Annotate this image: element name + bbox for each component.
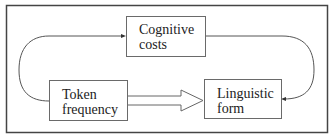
node-label-line1: Cognitive <box>139 22 205 37</box>
node-label-line1: Token <box>62 87 127 102</box>
node-token-frequency: Token frequency <box>49 80 128 121</box>
node-label-line2: frequency <box>62 102 127 117</box>
node-label-line2: form <box>217 101 281 116</box>
edge-token-to-linguistic <box>127 90 203 111</box>
node-label-line2: costs <box>139 37 205 52</box>
node-linguistic-form: Linguistic form <box>204 79 282 119</box>
node-label-line1: Linguistic <box>217 86 281 101</box>
node-cognitive-costs: Cognitive costs <box>126 16 206 57</box>
